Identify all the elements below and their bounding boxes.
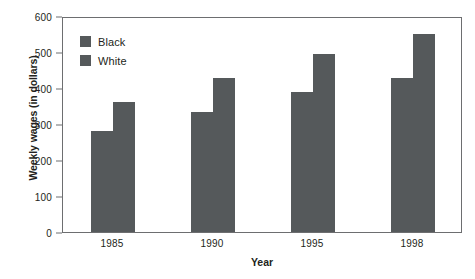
- legend-swatch-white: [80, 55, 91, 66]
- y-tick-label: 600: [18, 12, 52, 23]
- y-tick-label: 200: [18, 156, 52, 167]
- bar-white-1998[interactable]: [413, 34, 435, 232]
- legend-item-black[interactable]: Black: [80, 33, 127, 50]
- y-axis-tick-labels: 0100200300400500600: [12, 0, 52, 279]
- y-tick-label: 0: [18, 228, 52, 239]
- bar-black-1995[interactable]: [291, 92, 313, 232]
- bar-white-1995[interactable]: [313, 54, 335, 232]
- y-tick-label: 100: [18, 192, 52, 203]
- x-tick-label-1995: 1995: [272, 238, 352, 249]
- y-tick-label: 500: [18, 48, 52, 59]
- legend-label-black: Black: [98, 36, 125, 48]
- x-tick-label-1990: 1990: [172, 238, 252, 249]
- bar-group-1995: [263, 18, 363, 232]
- y-tick-label: 400: [18, 84, 52, 95]
- bar-white-1985[interactable]: [113, 102, 135, 232]
- legend-swatch-black: [80, 36, 91, 47]
- x-tick-label-1998: 1998: [372, 238, 452, 249]
- x-tick-label-1985: 1985: [72, 238, 152, 249]
- bar-black-1985[interactable]: [91, 131, 113, 232]
- legend-item-white[interactable]: White: [80, 52, 127, 69]
- chart-legend: BlackWhite: [80, 33, 127, 71]
- x-axis-tick-labels: 1985199019951998: [62, 238, 462, 254]
- bar-group-1998: [363, 18, 463, 232]
- bar-black-1998[interactable]: [391, 78, 413, 232]
- bar-chart-figure: Weekly wages (in dollars) 01002003004005…: [0, 0, 475, 279]
- bar-group-1990: [163, 18, 263, 232]
- x-axis-title: Year: [62, 256, 462, 268]
- legend-label-white: White: [98, 55, 127, 67]
- bar-white-1990[interactable]: [213, 78, 235, 232]
- y-tick-label: 300: [18, 120, 52, 131]
- bar-black-1990[interactable]: [191, 112, 213, 232]
